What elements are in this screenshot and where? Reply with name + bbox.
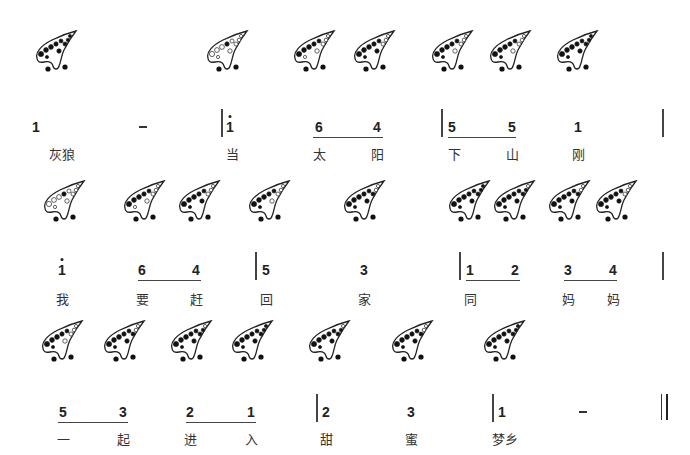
- jianpu-note: 5: [448, 119, 456, 135]
- ocarina-fingering-icon: [228, 320, 274, 366]
- lyric-text: 赶: [190, 289, 203, 308]
- ocarina-fingering-icon: [290, 30, 336, 76]
- lyric-text: 我: [56, 289, 69, 308]
- ocarina-fingering-icon: [428, 30, 474, 76]
- lyric-text: 阳: [371, 144, 384, 163]
- ocarina-fingering-icon: [100, 320, 146, 366]
- bar-line: [662, 109, 664, 137]
- ocarina-fingering-icon: [340, 180, 386, 226]
- eighth-note-beam: [564, 280, 617, 281]
- jianpu-note: 1: [498, 404, 506, 420]
- ocarina-fingering-icon: [175, 180, 221, 226]
- lyric-text: 下: [448, 144, 461, 163]
- high-octave-dot: [229, 115, 232, 118]
- ocarina-fingering-icon: [203, 30, 249, 76]
- ocarina-fingering-icon: [480, 320, 526, 366]
- lyric-text: 入: [245, 429, 258, 448]
- ocarina-fingering-icon: [167, 320, 213, 366]
- eighth-note-beam: [466, 280, 520, 281]
- eighth-note-beam: [313, 137, 383, 138]
- jianpu-note: 2: [186, 404, 194, 420]
- jianpu-note: 6: [138, 262, 146, 278]
- ocarina-fingering-icon: [40, 180, 86, 226]
- bar-line: [662, 252, 664, 280]
- ocarina-fingering-icon: [553, 30, 599, 76]
- ocarina-fingering-icon: [305, 320, 351, 366]
- lyric-text: 梦乡: [492, 429, 518, 448]
- jianpu-note: 1: [574, 119, 582, 135]
- final-double-bar: [661, 394, 668, 420]
- ocarina-fingering-icon: [32, 30, 78, 76]
- lyric-text: 回: [260, 289, 273, 308]
- bar-line: [459, 252, 461, 280]
- jianpu-note: 1: [247, 404, 255, 420]
- eighth-note-beam: [138, 280, 201, 281]
- jianpu-note: 4: [609, 262, 617, 278]
- high-octave-dot: [61, 258, 64, 261]
- jianpu-note: 3: [119, 404, 127, 420]
- jianpu-note: 5: [262, 262, 270, 278]
- jianpu-note: 5: [508, 119, 516, 135]
- eighth-note-beam: [448, 137, 516, 138]
- jianpu-note: 3: [564, 262, 572, 278]
- lyric-text: 进: [184, 429, 197, 448]
- lyric-text: 灰狼: [49, 144, 75, 163]
- jianpu-note: 5: [59, 404, 67, 420]
- lyric-text: 太: [313, 144, 326, 163]
- lyric-text: 一: [57, 429, 70, 448]
- lyric-text: 要: [136, 289, 149, 308]
- lyric-text: 山: [506, 144, 519, 163]
- lyric-text: 刚: [572, 144, 585, 163]
- ocarina-fingering-icon: [445, 180, 491, 226]
- lyric-text: 同: [464, 289, 477, 308]
- sustain-dash: [139, 126, 147, 128]
- lyric-text: 当: [226, 144, 239, 163]
- lyric-text: 妈: [607, 289, 620, 308]
- eighth-note-beam: [186, 422, 256, 423]
- ocarina-fingering-icon: [486, 30, 532, 76]
- jianpu-note: 1: [32, 119, 40, 135]
- ocarina-fingering-icon: [592, 180, 638, 226]
- bar-line: [316, 394, 318, 422]
- lyric-text: 甜: [320, 429, 333, 448]
- jianpu-note: 6: [315, 119, 323, 135]
- ocarina-fingering-icon: [120, 180, 166, 226]
- jianpu-note: 3: [407, 404, 415, 420]
- sustain-dash: [579, 411, 587, 413]
- jianpu-note: 4: [192, 262, 200, 278]
- ocarina-fingering-icon: [38, 320, 84, 366]
- jianpu-note: 1: [466, 262, 474, 278]
- lyric-text: 蜜: [405, 429, 418, 448]
- ocarina-fingering-icon: [388, 320, 434, 366]
- bar-line: [492, 394, 494, 422]
- jianpu-note: 1: [226, 119, 234, 135]
- jianpu-note: 1: [58, 262, 66, 278]
- ocarina-fingering-icon: [545, 180, 591, 226]
- jianpu-note: 3: [360, 262, 368, 278]
- ocarina-fingering-icon: [490, 180, 536, 226]
- lyric-text: 妈: [562, 289, 575, 308]
- lyric-text: 起: [117, 429, 130, 448]
- bar-line: [441, 109, 443, 137]
- lyric-text: 家: [358, 289, 371, 308]
- jianpu-note: 2: [511, 262, 519, 278]
- jianpu-note: 2: [322, 404, 330, 420]
- bar-line: [255, 252, 257, 280]
- ocarina-fingering-icon: [350, 30, 396, 76]
- eighth-note-beam: [58, 422, 128, 423]
- jianpu-note: 4: [373, 119, 381, 135]
- bar-line: [221, 109, 223, 137]
- ocarina-fingering-icon: [245, 180, 291, 226]
